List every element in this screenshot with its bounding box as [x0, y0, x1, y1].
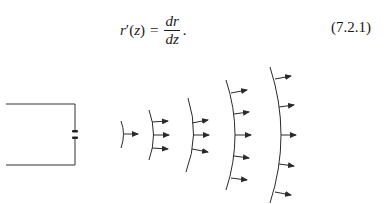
- wavefront-2: [149, 110, 169, 160]
- gap-mark-top: [72, 130, 78, 133]
- source-wire: [6, 104, 75, 130]
- wavefront-3: [186, 98, 209, 172]
- gap-mark-bottom: [72, 137, 78, 140]
- source-wire: [6, 139, 75, 165]
- wavefront-1: [121, 121, 138, 148]
- dipole-source: [6, 104, 78, 165]
- wave-propagation-figure: [0, 0, 388, 204]
- wavefront-5: [270, 67, 296, 203]
- wavefront-4: [226, 80, 251, 190]
